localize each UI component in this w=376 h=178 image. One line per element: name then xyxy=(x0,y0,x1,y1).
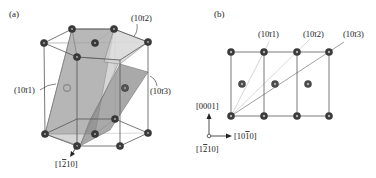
panel-b: (b) (10ī1) xyxy=(196,9,364,154)
out-of-plane-axis-icon xyxy=(207,134,211,138)
label-plane-1011: (10ī1) xyxy=(14,85,35,95)
leader-1012 xyxy=(134,24,137,36)
panel-a: (a) xyxy=(9,9,171,169)
leader-1011 xyxy=(40,84,56,90)
vertical-arrow-icon xyxy=(207,113,212,119)
horizontal-arrow-icon xyxy=(226,134,232,139)
label-axis-10-10: [1010] xyxy=(234,131,257,141)
label-plane-1012: (10ī2) xyxy=(131,13,152,23)
leader-1013 xyxy=(150,76,157,86)
arrow-head-icon xyxy=(70,151,75,157)
hcp-figure: (a) xyxy=(0,0,376,178)
label-direction-a: [1210] xyxy=(55,159,78,169)
label-axis-0001: [0001] xyxy=(196,101,219,111)
label-plane-1013: (10ī3) xyxy=(150,86,171,96)
label-axis-1-210: [1210] xyxy=(196,144,219,154)
panel-a-label: (a) xyxy=(9,9,19,19)
label-trace-1013: (10ī3) xyxy=(343,29,364,39)
label-trace-1011: (10ī1) xyxy=(258,29,279,39)
label-trace-1012: (10ī2) xyxy=(303,29,324,39)
panel-b-label: (b) xyxy=(214,9,225,19)
